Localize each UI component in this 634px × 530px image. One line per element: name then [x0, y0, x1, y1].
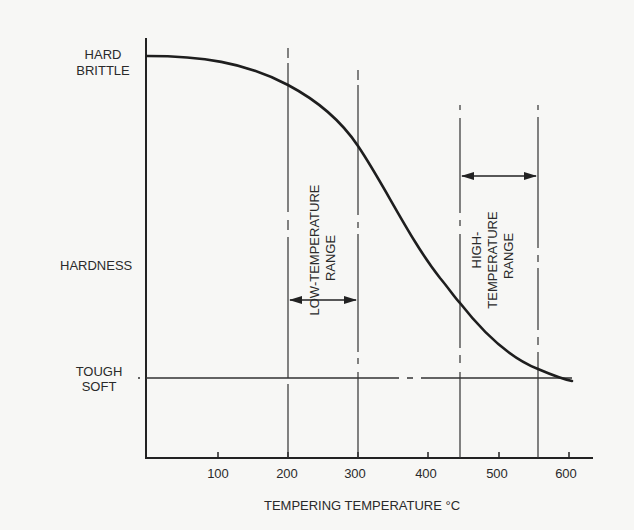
label-soft: SOFT	[82, 379, 117, 394]
low-range-arrow	[289, 296, 357, 304]
hardness-curve	[147, 56, 572, 381]
y-axis-title: HARDNESS	[60, 258, 133, 273]
low-range-label: LOW-TEMPERATURE RANGE	[307, 184, 338, 315]
svg-text:RANGE: RANGE	[323, 235, 338, 282]
svg-text:200: 200	[276, 466, 298, 481]
x-axis-title: TEMPERING TEMPERATURE °C	[264, 498, 460, 513]
svg-text:100: 100	[207, 466, 229, 481]
label-hard: HARD	[85, 47, 122, 62]
label-tough: TOUGH	[76, 364, 123, 379]
svg-text:TEMPERATURE: TEMPERATURE	[485, 211, 500, 309]
high-range-label: HIGH- TEMPERATURE RANGE	[469, 211, 516, 309]
label-brittle: BRITTLE	[76, 63, 130, 78]
svg-text:RANGE: RANGE	[501, 233, 516, 280]
svg-text:LOW-TEMPERATURE: LOW-TEMPERATURE	[307, 184, 322, 315]
hardness-chart: HARD BRITTLE HARDNESS TOUGH SOFT 100 200…	[0, 0, 634, 530]
svg-text:HIGH-: HIGH-	[469, 232, 484, 269]
svg-text:400: 400	[415, 466, 437, 481]
x-tick-labels: 100 200 300 400 500 600	[207, 466, 577, 481]
svg-text:300: 300	[344, 466, 366, 481]
svg-text:600: 600	[555, 466, 577, 481]
high-range-arrow	[461, 172, 537, 180]
svg-text:500: 500	[486, 466, 508, 481]
